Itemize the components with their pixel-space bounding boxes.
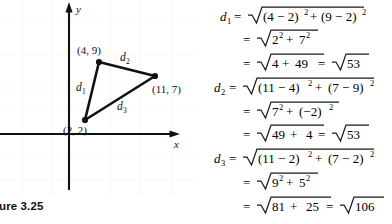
- y-axis: [65, 2, 72, 190]
- svg-text:2: 2: [308, 149, 312, 159]
- svg-text:2: 2: [279, 173, 283, 183]
- svg-text:53: 53: [347, 56, 360, 71]
- svg-text:(4 − 2): (4 − 2): [263, 9, 299, 24]
- svg-text:1: 1: [82, 87, 86, 96]
- svg-text:=: =: [234, 9, 241, 24]
- svg-text:2: 2: [329, 102, 333, 112]
- figure-panel: y x (4, 9) (11, 7) (2, 2): [0, 0, 196, 224]
- x-axis-label: x: [173, 138, 179, 150]
- svg-text:4: 4: [306, 127, 313, 142]
- svg-text:=: =: [243, 32, 250, 47]
- svg-text:d: d: [220, 9, 227, 24]
- svg-text:+: +: [290, 127, 297, 142]
- svg-text:=: =: [318, 127, 325, 142]
- svg-text:(11 − 2): (11 − 2): [258, 151, 300, 166]
- x-axis: [0, 130, 180, 137]
- figure-page: y x (4, 9) (11, 7) (2, 2): [0, 0, 392, 224]
- svg-text:=: =: [243, 199, 250, 214]
- equation-line-9: = 81 + 25 = 106: [196, 194, 392, 217]
- svg-text:d: d: [214, 151, 221, 166]
- equation-line-1: d 1 = (4 − 2) 2 + (9 − 2) 2: [196, 4, 392, 27]
- equation-line-7: d 3 = (11 − 2) 2 + (7 − 2) 2: [196, 146, 392, 169]
- svg-text:+: +: [290, 199, 297, 214]
- svg-text:=: =: [229, 80, 236, 95]
- svg-text:=: =: [243, 104, 250, 119]
- segment-d1-label: d 1: [76, 81, 86, 96]
- svg-text:(7 − 9): (7 − 9): [328, 80, 364, 95]
- equation-line-5: = 7 2 + (−2) 2: [196, 99, 392, 122]
- point-b-label: (11, 7): [152, 83, 181, 96]
- svg-text:=: =: [243, 175, 250, 190]
- svg-text:2: 2: [279, 30, 283, 40]
- equation-line-2: = 2 2 + 7 2: [196, 27, 392, 50]
- svg-text:3: 3: [123, 106, 127, 115]
- svg-text:=: =: [243, 127, 250, 142]
- svg-text:2: 2: [272, 32, 279, 47]
- point-a-dot: [96, 59, 102, 65]
- point-c-dot: [82, 117, 88, 123]
- svg-text:+: +: [286, 32, 293, 47]
- svg-text:=: =: [318, 56, 325, 71]
- segment-d3-line: [85, 76, 155, 120]
- svg-text:(7 − 2): (7 − 2): [328, 151, 364, 166]
- svg-text:49: 49: [295, 56, 308, 71]
- svg-text:25: 25: [306, 199, 319, 214]
- coordinate-plane: y x (4, 9) (11, 7) (2, 2): [0, 0, 196, 196]
- svg-text:5: 5: [299, 175, 306, 190]
- equation-line-8: = 9 2 + 5 2: [196, 170, 392, 193]
- equation-line-3: = 4 + 49 = 53: [196, 51, 392, 74]
- svg-text:9: 9: [272, 175, 279, 190]
- svg-text:+: +: [282, 56, 289, 71]
- point-c-label: (2, 2): [63, 124, 87, 137]
- svg-text:7: 7: [272, 104, 279, 119]
- svg-text:2: 2: [126, 57, 130, 66]
- svg-text:53: 53: [347, 127, 360, 142]
- svg-text:2: 2: [370, 149, 374, 159]
- svg-text:49: 49: [272, 127, 285, 142]
- svg-text:2: 2: [279, 102, 283, 112]
- equation-panel: d 1 = (4 − 2) 2 + (9 − 2) 2 = 2 2 + 7 2: [196, 0, 392, 224]
- svg-text:+: +: [315, 151, 322, 166]
- svg-text:+: +: [315, 80, 322, 95]
- svg-text:2: 2: [306, 30, 310, 40]
- svg-text:=: =: [326, 199, 333, 214]
- background-grid: [0, 0, 196, 196]
- svg-text:+: +: [310, 9, 317, 24]
- svg-text:(11 − 4): (11 − 4): [258, 80, 300, 95]
- figure-caption: gure 3.25: [0, 200, 43, 212]
- svg-text:(9 − 2): (9 − 2): [321, 9, 357, 24]
- point-a-label: (4, 9): [77, 44, 101, 57]
- svg-text:3: 3: [221, 158, 225, 168]
- svg-text:2: 2: [370, 78, 374, 88]
- segment-d2-label: d 2: [120, 51, 130, 66]
- svg-text:=: =: [243, 56, 250, 71]
- svg-text:1: 1: [227, 16, 231, 26]
- y-axis-label: y: [75, 3, 81, 15]
- svg-text:d: d: [214, 80, 221, 95]
- segment-d3-label: d 3: [117, 100, 127, 115]
- svg-text:81: 81: [272, 199, 285, 214]
- svg-text:=: =: [229, 151, 236, 166]
- point-b-dot: [152, 73, 158, 79]
- svg-text:2: 2: [308, 78, 312, 88]
- svg-text:2: 2: [362, 7, 366, 17]
- svg-text:4: 4: [272, 56, 279, 71]
- svg-text:7: 7: [299, 32, 306, 47]
- svg-text:106: 106: [355, 199, 375, 214]
- equation-line-6: = 49 + 4 = 53: [196, 122, 392, 145]
- svg-text:+: +: [286, 175, 293, 190]
- svg-text:(−2): (−2): [299, 104, 322, 119]
- svg-text:2: 2: [304, 7, 308, 17]
- svg-text:2: 2: [221, 87, 225, 97]
- svg-text:2: 2: [306, 173, 310, 183]
- equation-line-4: d 2 = (11 − 4) 2 + (7 − 9) 2: [196, 75, 392, 98]
- svg-text:+: +: [286, 104, 293, 119]
